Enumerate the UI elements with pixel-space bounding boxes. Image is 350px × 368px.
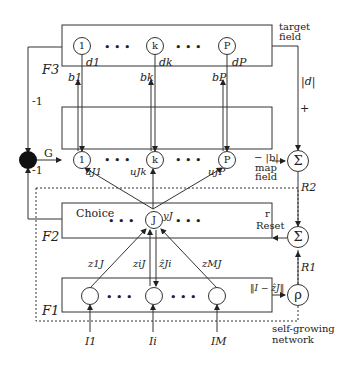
f1-node-1 [81,287,99,305]
f1-node-i [145,287,163,305]
label-zmj: zMJ [202,258,222,269]
sum-node-top: Σ [287,150,309,172]
label-plus: + [300,103,309,114]
label-bk: bk [140,72,154,83]
f1-label: F1 [42,305,59,316]
label-ujk: uJk [130,166,147,177]
map-field-caption: mapfield [255,163,277,181]
f1-ellipsis: • • • [106,292,132,303]
label-neg1-bottom: -1 [32,165,43,176]
label-abs-d: |d| [301,76,315,87]
label-dp: dP [232,57,246,68]
label-neg1-top: -1 [32,96,43,107]
label-ii: Ii [149,336,157,347]
sum-node-reset: Σ [287,226,309,248]
label-i1: I1 [85,336,96,347]
label-norm: ‖I − ẑJ‖ [250,283,284,294]
f3-node-p: P [218,37,236,55]
f3-ellipsis-2: • • • [175,42,201,53]
map-ellipsis: • • • [104,155,130,166]
self-growing-caption: self-growingnetwork [272,323,335,345]
label-dk: dk [159,57,173,68]
map-node-k: k [146,151,164,169]
label-bp: bP [212,72,226,83]
f1-ellipsis-2: • • • [170,292,196,303]
label-ujp: uJP [208,166,225,177]
label-reset: Reset [256,220,285,231]
f3-node-k: k [146,37,164,55]
label-im: IM [211,336,227,347]
label-g: G [44,148,53,159]
label-r: r [265,208,270,219]
f2-ellipsis: • • • [108,216,134,227]
map-ellipsis-2: • • • [175,155,201,166]
f2-ellipsis-2: • • • [175,216,201,227]
label-b1: b1 [68,72,82,83]
label-r1: R1 [301,262,316,273]
label-zhat-ji: ẑJi [159,258,171,269]
label-d1: d1 [86,57,100,68]
f3-ellipsis: • • • [104,42,130,53]
label-yj: yJ [163,210,173,221]
f2-label: F2 [42,231,59,242]
label-r2: R2 [301,182,316,193]
rho-node: ρ [287,284,309,306]
label-z1j: z1J [88,258,104,269]
target-field-caption: targetfield [279,22,310,42]
label-zij: ziJ [133,258,145,269]
f2-node-j: J [145,211,163,229]
f1-node-m [208,287,226,305]
f3-label: F3 [42,64,59,75]
f3-node-1: 1 [73,37,91,55]
label-uj1: uJ1 [85,166,102,177]
